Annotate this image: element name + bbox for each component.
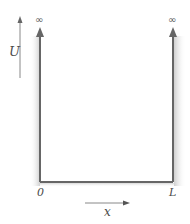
u-axis-label: U [9, 45, 20, 58]
right-infinity-label: ∞ [168, 15, 176, 25]
left-wall-shading [30, 36, 40, 186]
bottom-shading [40, 183, 174, 187]
x-axis-arrow-icon [123, 201, 130, 206]
well-diagram [0, 0, 190, 224]
u-axis-arrow-icon [18, 16, 23, 23]
left-wall-arrow-icon [36, 27, 44, 37]
origin-label: 0 [37, 187, 44, 198]
left-infinity-label: ∞ [35, 15, 43, 25]
right-wall-arrow-icon [169, 27, 177, 37]
well-outline [40, 36, 173, 182]
x-axis-label: x [104, 206, 111, 218]
right-wall-shading [174, 36, 186, 186]
length-label: L [169, 187, 176, 198]
